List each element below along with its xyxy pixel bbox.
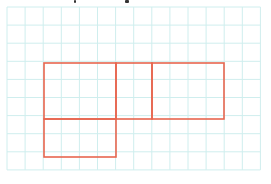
grid-lines [7, 7, 260, 170]
grid-diagram [0, 0, 271, 184]
rect-upper-left [44, 63, 116, 119]
